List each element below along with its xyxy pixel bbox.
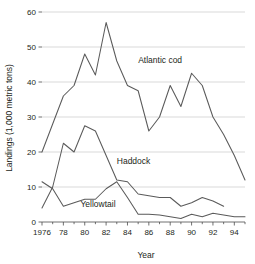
x-tick-label-1992: 92 — [208, 228, 217, 237]
x-tick-label-1976: 1976 — [33, 228, 51, 237]
series-label-yellowtail: Yellowtail — [80, 199, 115, 209]
y-tick-label-40: 40 — [27, 78, 36, 87]
x-axis-title: Year — [137, 250, 154, 260]
x-axis-ticks — [42, 222, 245, 226]
y-axis-tick-labels: 0102030405060 — [27, 8, 42, 227]
x-tick-label-1994: 94 — [230, 228, 239, 237]
landings-line-chart: 0102030405060 1976788082848688909294 Atl… — [0, 0, 255, 264]
y-tick-label-10: 10 — [27, 183, 36, 192]
x-tick-label-1988: 88 — [166, 228, 175, 237]
x-tick-label-1984: 84 — [123, 228, 132, 237]
x-tick-label-1990: 90 — [187, 228, 196, 237]
y-tick-label-60: 60 — [27, 8, 36, 17]
x-tick-label-1978: 78 — [59, 228, 68, 237]
x-tick-label-1986: 86 — [144, 228, 153, 237]
y-tick-label-50: 50 — [27, 43, 36, 52]
chart-container: 0102030405060 1976788082848688909294 Atl… — [0, 0, 255, 264]
y-tick-label-0: 0 — [32, 218, 37, 227]
y-tick-label-20: 20 — [27, 148, 36, 157]
series-label-haddock: Haddock — [117, 156, 151, 166]
x-axis-tick-labels: 1976788082848688909294 — [33, 228, 239, 237]
x-tick-label-1980: 80 — [80, 228, 89, 237]
x-tick-label-1982: 82 — [102, 228, 111, 237]
series-label-atlantic-cod: Atlantic cod — [138, 55, 182, 65]
data-series — [42, 23, 245, 219]
y-axis-title: Landings (1,000 metric tons) — [4, 64, 14, 172]
series-line-haddock — [42, 126, 224, 208]
y-tick-label-30: 30 — [27, 113, 36, 122]
